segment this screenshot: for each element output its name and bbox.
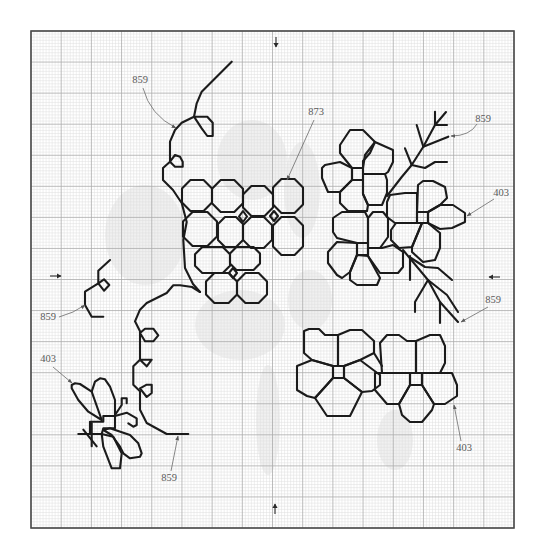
floss-callout: 859: [132, 74, 176, 128]
ghost-stitch-area: [256, 365, 280, 475]
leader-line: [143, 88, 176, 128]
right-center-arrow-icon: [489, 274, 501, 279]
stitch-outline: [368, 245, 403, 273]
stitch-outline: [412, 223, 440, 262]
leader-line: [451, 124, 477, 136]
floss-code-label: 859: [475, 113, 491, 124]
stitch-outline: [270, 211, 278, 221]
cross-stitch-chart: 859873859403859859403859403: [0, 0, 543, 556]
floss-callout: 403: [467, 187, 509, 216]
stitch-line: [415, 280, 428, 312]
top-center-arrow-icon: [273, 37, 278, 48]
stitch-outline: [422, 373, 457, 404]
stitch-line: [417, 125, 424, 147]
stitch-outline: [170, 155, 183, 167]
leader-line: [59, 305, 85, 317]
floss-code-label: 859: [132, 74, 148, 85]
floss-code-label: 403: [493, 187, 509, 198]
petal-outline: [230, 247, 260, 270]
floss-code-label: 873: [308, 106, 324, 117]
ghost-stitch-area: [217, 120, 287, 200]
stitch-outline: [417, 181, 447, 212]
stitch-outline: [328, 242, 357, 278]
stitch-outline: [90, 416, 115, 434]
floss-code-label: 403: [456, 442, 472, 453]
floss-code-label: 859: [40, 311, 56, 322]
ghost-stitch-area: [195, 290, 285, 360]
floss-code-label: 859: [161, 472, 177, 483]
floss-code-label: 859: [485, 294, 501, 305]
stitch-outline: [315, 378, 362, 416]
ghost-stitch-area: [288, 270, 332, 330]
pattern-canvas: 859873859403859859403859403: [0, 0, 543, 556]
stitch-outline: [333, 366, 344, 378]
floss-code-label: 403: [40, 353, 56, 364]
left-center-arrow-icon: [50, 273, 62, 278]
stitch-outline: [357, 243, 368, 255]
leader-line: [454, 405, 461, 441]
